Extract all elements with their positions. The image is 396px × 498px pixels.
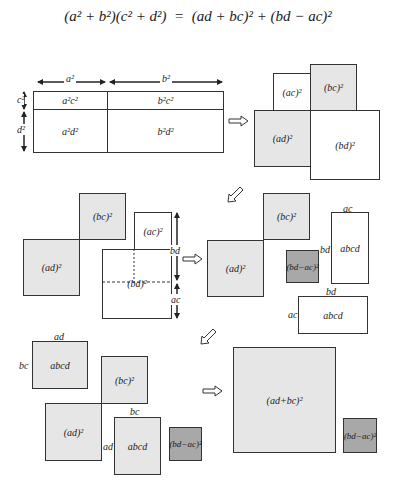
- rect-abcd-wide: abcd: [298, 296, 368, 334]
- arrow-right-icon: [183, 254, 202, 264]
- rect-abcd-top: abcd: [32, 341, 88, 389]
- square-ad2: (ad)²: [23, 239, 80, 296]
- side-label-bd: bd: [170, 245, 180, 256]
- cell-a2c2: a²c²: [33, 91, 107, 109]
- square-bc2: (bc)²: [310, 64, 357, 111]
- square-ac2: (ac)²: [134, 212, 172, 250]
- square-bd2: (bd)²: [310, 110, 380, 180]
- square-bc2: (bc)²: [79, 193, 126, 240]
- square-ad2: (ad)²: [254, 110, 311, 167]
- arrow-down-left-icon: [228, 187, 243, 202]
- square-bc2: (bc)²: [101, 356, 148, 404]
- width-label-a2: a²: [64, 73, 76, 84]
- height-label-c2: c²: [17, 94, 24, 105]
- height-label-d2: d²: [17, 124, 25, 135]
- rect-side-label-bd: bd: [320, 244, 330, 255]
- arrow-right-icon: [203, 386, 222, 396]
- rect-top-label-bc: bc: [130, 406, 139, 417]
- cell-b2d2: b²d²: [107, 110, 224, 153]
- rect-side-label-ad: ad: [103, 441, 113, 452]
- square-bd-minus-ac2: (bd−ac)²: [286, 250, 319, 283]
- square-bd2: (bd)²: [102, 249, 172, 319]
- rect-abcd-bottom: abcd: [114, 417, 161, 475]
- square-bd-minus-ac2: (bd−ac)²: [169, 427, 202, 461]
- rect-abcd-tall: abcd: [331, 212, 369, 284]
- cell-b2c2: b²c²: [107, 91, 224, 109]
- square-ad2: (ad)²: [45, 403, 102, 461]
- width-label-b2: b²: [160, 73, 172, 84]
- square-bc2: (bc)²: [263, 193, 310, 240]
- square-ad-plus-bc2: (ad+bc)²: [233, 347, 336, 453]
- cell-a2d2: a²d²: [33, 110, 107, 153]
- arrow-right-icon: [229, 116, 248, 126]
- arrow-down-left-icon: [201, 329, 216, 344]
- rect-side-label-ac: ac: [288, 309, 297, 320]
- rect-side-label-bc: bc: [19, 360, 28, 371]
- square-ad2: (ad)²: [207, 240, 264, 297]
- side-label-ac: ac: [171, 294, 180, 305]
- square-bd-minus-ac2: (bd−ac)²: [343, 418, 377, 453]
- square-ac2: (ac)²: [273, 73, 311, 111]
